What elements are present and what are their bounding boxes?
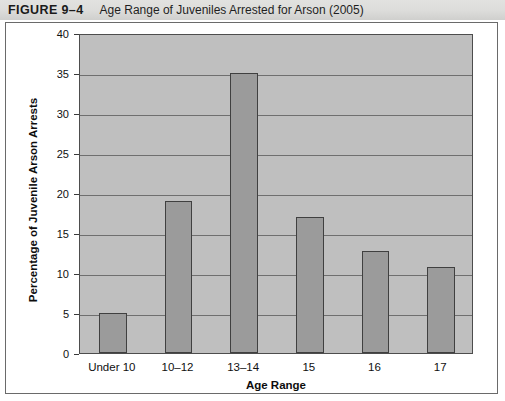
y-axis-tick bbox=[74, 274, 79, 275]
y-axis-tick bbox=[74, 154, 79, 155]
y-axis-tick-label: 25 bbox=[35, 148, 69, 160]
bar[interactable] bbox=[165, 201, 193, 353]
gridline bbox=[80, 235, 472, 236]
x-axis-tick-label: 15 bbox=[302, 361, 315, 373]
y-axis-tick-label: 10 bbox=[35, 268, 69, 280]
bar[interactable] bbox=[99, 313, 127, 353]
x-axis-tick-label: Under 10 bbox=[88, 361, 135, 373]
y-axis-tick bbox=[74, 354, 79, 355]
x-axis-title: Age Range bbox=[79, 379, 473, 391]
x-axis-tick-label: 16 bbox=[368, 361, 381, 373]
figure-caption: Age Range of Juveniles Arrested for Arso… bbox=[100, 3, 364, 17]
figure-number-label: FIGURE 9–4 bbox=[8, 3, 84, 17]
y-axis-tick bbox=[74, 114, 79, 115]
y-axis-tick bbox=[74, 234, 79, 235]
y-axis-tick bbox=[74, 314, 79, 315]
y-axis-tick-label: 0 bbox=[35, 348, 69, 360]
y-axis-tick bbox=[74, 74, 79, 75]
x-axis-tick-label: 10–12 bbox=[162, 361, 194, 373]
y-axis-tick bbox=[74, 34, 79, 35]
gridline bbox=[80, 315, 472, 316]
figure-header: FIGURE 9–4 Age Range of Juveniles Arrest… bbox=[0, 0, 505, 20]
y-axis-tick bbox=[74, 194, 79, 195]
gridline bbox=[80, 195, 472, 196]
y-axis-tick-label: 15 bbox=[35, 228, 69, 240]
y-axis-tick-label: 35 bbox=[35, 68, 69, 80]
y-axis-tick-label: 5 bbox=[35, 308, 69, 320]
y-axis-tick-label: 40 bbox=[35, 28, 69, 40]
gridline bbox=[80, 115, 472, 116]
x-axis-tick-label: 17 bbox=[434, 361, 447, 373]
y-axis-tick-label: 30 bbox=[35, 108, 69, 120]
gridline bbox=[80, 275, 472, 276]
gridline bbox=[80, 75, 472, 76]
bar[interactable] bbox=[230, 73, 258, 353]
bar[interactable] bbox=[296, 217, 324, 353]
x-axis-tick-label: 13–14 bbox=[227, 361, 259, 373]
bar-chart: Percentage of Juvenile Arson Arrests Age… bbox=[6, 23, 499, 395]
chart-frame: Percentage of Juvenile Arson Arrests Age… bbox=[5, 22, 498, 394]
y-axis-tick-label: 20 bbox=[35, 188, 69, 200]
plot-area bbox=[79, 34, 473, 354]
bar[interactable] bbox=[427, 267, 455, 353]
gridline bbox=[80, 155, 472, 156]
bar[interactable] bbox=[362, 251, 390, 353]
